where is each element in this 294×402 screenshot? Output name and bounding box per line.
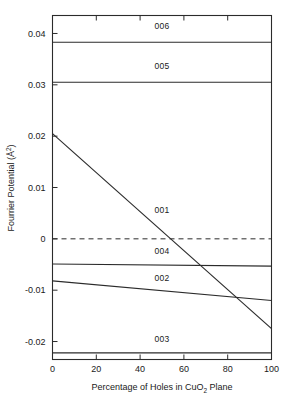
chart-figure: 0.040.030.020.010-0.01-0.02 020406080100… xyxy=(0,0,294,402)
y-tick-label: 0.04 xyxy=(28,29,46,39)
y-tick-label: -0.02 xyxy=(25,337,46,347)
x-tick-label: 80 xyxy=(223,364,233,374)
y-tick-label: 0.01 xyxy=(28,183,46,193)
series-label-006: 006 xyxy=(155,21,170,31)
x-tick-label: 100 xyxy=(264,364,279,374)
x-tick-label: 0 xyxy=(50,364,55,374)
series-label-004: 004 xyxy=(155,246,170,256)
y-axis-title: Fourrier Potential (Å2) xyxy=(5,144,16,231)
y-tick-label: 0.02 xyxy=(28,131,46,141)
y-tick-label: -0.01 xyxy=(25,285,46,295)
x-tick-label: 20 xyxy=(91,364,101,374)
series-label-002: 002 xyxy=(155,273,170,283)
series-label-005: 005 xyxy=(155,61,170,71)
series-label-001: 001 xyxy=(155,205,170,215)
y-tick-label: 0.03 xyxy=(28,80,46,90)
x-axis-title: Percentage of Holes in CuO2 Plane xyxy=(91,382,232,394)
fourier-potential-line-chart: 0.040.030.020.010-0.01-0.02 020406080100… xyxy=(0,0,294,402)
y-tick-label: 0 xyxy=(40,234,45,244)
x-tick-label: 60 xyxy=(179,364,189,374)
x-tick-label: 40 xyxy=(135,364,145,374)
series-label-003: 003 xyxy=(155,334,170,344)
